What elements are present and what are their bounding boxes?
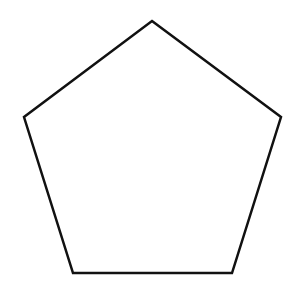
diagram-canvas bbox=[0, 0, 301, 293]
pentagon-shape bbox=[24, 21, 281, 273]
